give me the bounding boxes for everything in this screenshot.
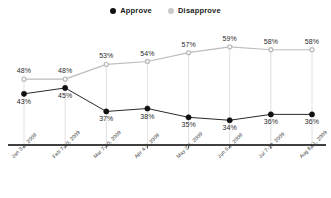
value-label-disapprove-5: 59% bbox=[223, 35, 237, 42]
value-label-disapprove-0: 48% bbox=[17, 67, 31, 74]
data-point-disapprove-5 bbox=[228, 45, 232, 49]
poll-trend-chart: Approve Disapprove 48%48%53%54%57%59%58%… bbox=[0, 0, 331, 198]
data-point-disapprove-3 bbox=[145, 60, 149, 64]
value-label-disapprove-1: 48% bbox=[58, 67, 72, 74]
data-point-approve-0 bbox=[21, 91, 26, 96]
data-point-approve-7 bbox=[309, 112, 314, 117]
chart-canvas bbox=[0, 0, 331, 198]
data-point-disapprove-2 bbox=[104, 62, 108, 66]
data-point-approve-6 bbox=[268, 112, 273, 117]
series-line-disapprove bbox=[24, 47, 312, 79]
value-label-approve-7: 36% bbox=[305, 118, 319, 125]
data-point-approve-2 bbox=[104, 109, 109, 114]
data-point-approve-5 bbox=[227, 118, 232, 123]
data-point-approve-3 bbox=[145, 106, 150, 111]
data-point-disapprove-4 bbox=[187, 51, 191, 55]
value-label-approve-2: 37% bbox=[99, 115, 113, 122]
value-label-disapprove-2: 53% bbox=[99, 52, 113, 59]
data-point-approve-4 bbox=[186, 115, 191, 120]
data-point-disapprove-7 bbox=[310, 48, 314, 52]
value-label-disapprove-6: 58% bbox=[264, 38, 278, 45]
value-label-disapprove-3: 54% bbox=[140, 50, 154, 57]
data-point-disapprove-0 bbox=[22, 77, 26, 81]
value-label-disapprove-4: 57% bbox=[181, 41, 195, 48]
value-label-approve-4: 35% bbox=[181, 121, 195, 128]
data-point-disapprove-6 bbox=[269, 48, 273, 52]
series-lines bbox=[24, 47, 312, 120]
data-point-disapprove-1 bbox=[63, 77, 67, 81]
data-point-approve-1 bbox=[63, 85, 68, 90]
plot-area: 48%48%53%54%57%59%58%58%43%45%37%38%35%3… bbox=[0, 0, 331, 198]
value-label-disapprove-7: 58% bbox=[305, 38, 319, 45]
value-label-approve-3: 38% bbox=[140, 113, 154, 120]
value-label-approve-0: 43% bbox=[17, 98, 31, 105]
value-label-approve-5: 34% bbox=[223, 124, 237, 131]
value-label-approve-1: 45% bbox=[58, 92, 72, 99]
value-label-approve-6: 36% bbox=[264, 118, 278, 125]
